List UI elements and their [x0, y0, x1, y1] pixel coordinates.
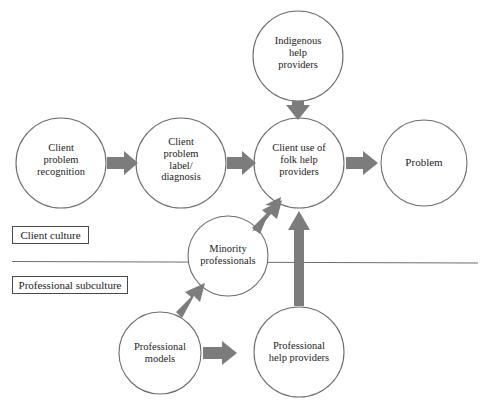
arrow-minority-to-folk-use — [252, 197, 282, 234]
arrow-folk-use-to-problem — [346, 151, 378, 175]
arrow-prof-help-to-folk-use — [288, 211, 310, 306]
node-client-problem-label-diagnosis[interactable] — [136, 118, 226, 208]
arrow-recognition-to-label — [107, 151, 138, 175]
arrow-label-to-folk-use — [227, 151, 256, 175]
client-culture-zone-text: Client culture — [15, 230, 85, 241]
professional-subculture-zone-text: Professional subculture — [14, 280, 127, 291]
arrow-models-to-prof-help — [203, 341, 237, 365]
arrow-indigenous-to-folk-use — [286, 101, 310, 120]
node-client-use-of-folk-help-providers[interactable] — [254, 118, 344, 208]
node-client-problem-recognition[interactable] — [16, 118, 106, 208]
arrow-models-to-minority — [176, 283, 205, 318]
node-professional-models[interactable] — [119, 312, 201, 394]
client-culture-zone-label: Client culture — [12, 226, 89, 244]
node-professional-help-providers[interactable] — [254, 307, 344, 397]
diagram-canvas: Indigenous help providers Client problem… — [0, 0, 489, 409]
professional-subculture-zone-label: Professional subculture — [12, 276, 128, 294]
node-problem[interactable] — [381, 120, 467, 206]
diagram-vector-layer — [0, 0, 489, 409]
node-indigenous-help-providers[interactable] — [253, 11, 343, 101]
